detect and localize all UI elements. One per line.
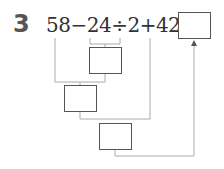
answer-box[interactable] <box>178 12 211 39</box>
arrowhead-icon <box>191 40 197 46</box>
step1-box[interactable] <box>89 47 122 74</box>
step3-box[interactable] <box>99 123 132 150</box>
step2-box[interactable] <box>64 85 97 112</box>
order-of-operations-diagram: 3 58−24÷2+42= <box>0 0 224 169</box>
bracket-24-div-2 <box>90 38 120 44</box>
